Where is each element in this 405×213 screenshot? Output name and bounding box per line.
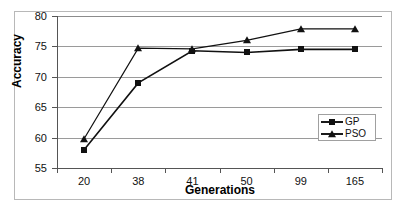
y-tick-label-55: 55 bbox=[19, 163, 47, 174]
legend-label-gp: GP bbox=[345, 117, 359, 127]
x-axis-title: Generations bbox=[57, 183, 383, 197]
chart-legend[interactable]: GP PSO bbox=[318, 114, 376, 141]
legend-line-pso bbox=[321, 129, 343, 139]
legend-label-pso: PSO bbox=[345, 129, 366, 139]
y-tick-label-60: 60 bbox=[19, 133, 47, 144]
square-marker-icon bbox=[329, 119, 335, 125]
chart-screenshot: 556065707580 2038415099165 Accuracy Gene… bbox=[0, 0, 405, 213]
legend-item-gp[interactable]: GP bbox=[321, 116, 375, 128]
legend-line-gp bbox=[321, 117, 343, 127]
y-axis-title: Accuracy bbox=[10, 16, 24, 106]
legend-item-pso[interactable]: PSO bbox=[321, 128, 375, 140]
triangle-marker-icon bbox=[328, 130, 336, 137]
